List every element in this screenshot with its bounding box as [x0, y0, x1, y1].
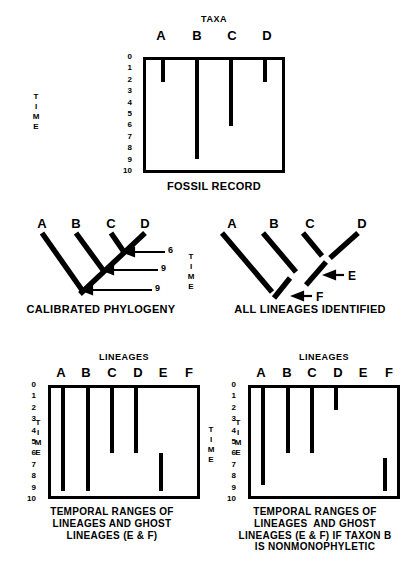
calibrated-phylogeny-arrows — [0, 228, 210, 303]
temporal-ranges-right-chart — [248, 385, 400, 499]
all-ghost-label-e: E — [348, 269, 356, 283]
right-time-letter-i: I — [232, 428, 244, 438]
temporal-ranges-left-caption: TEMPORAL RANGES OF LINEAGES AND GHOST LI… — [22, 506, 202, 541]
fossil-time-ticks: 0 1 2 3 4 5 6 7 8 9 10 — [110, 53, 132, 178]
left-time-letter-m: M — [32, 438, 44, 448]
right-bar-d — [334, 388, 338, 410]
left-column-header-d: D — [125, 365, 151, 380]
left-tick: 10 — [16, 495, 36, 506]
right-column-header-e: E — [350, 365, 376, 380]
calib-time-letter-e: E — [185, 282, 197, 292]
calib-node-age-6: 6 — [168, 245, 173, 255]
fossil-column-header-d: D — [249, 28, 285, 43]
left-bar-a — [61, 388, 65, 491]
right-time-letter-t: T — [232, 418, 244, 428]
fossil-time-letter-t: T — [30, 92, 42, 102]
left-bar-e — [159, 453, 163, 491]
calib-arrow-group — [82, 248, 165, 294]
fossil-tick: 10 — [110, 167, 132, 178]
calib-time-letter-t: T — [185, 252, 197, 262]
right-time-axis-label: T I M E — [232, 418, 244, 458]
calibrated-phylogeny-caption: CALIBRATED PHYLOGENY — [6, 303, 196, 316]
right-column-header-d: D — [325, 365, 351, 380]
left-bar-d — [134, 388, 138, 453]
calib-arrow-head-9b — [82, 286, 92, 294]
right-column-header-c: C — [299, 365, 325, 380]
left-column-header-e: E — [150, 365, 176, 380]
all-arrow-head-e — [325, 271, 335, 279]
fossil-bar-b — [195, 60, 199, 159]
left-bar-b — [86, 388, 90, 491]
right-bar-c — [310, 388, 314, 453]
all-lineages-arrows — [210, 228, 410, 303]
all-lineages-caption: ALL LINEAGES IDENTIFIED — [212, 303, 408, 316]
calib-arrow-head-6 — [124, 248, 134, 256]
right-time-letter-m: M — [232, 438, 244, 448]
calib-arrow-head-9a — [103, 266, 113, 274]
left-time-letter-t: T — [32, 418, 44, 428]
left-time-axis-label: T I M E — [32, 418, 44, 458]
fossil-record-chart — [143, 57, 285, 173]
fossil-bar-a — [161, 60, 165, 82]
calib-time-axis-label: T I M E — [185, 252, 197, 292]
all-ghost-label-f: F — [316, 290, 323, 304]
temporal-ranges-right-caption: TEMPORAL RANGES OF LINEAGES AND GHOST LI… — [222, 506, 408, 553]
fossil-group-header: TAXA — [143, 14, 285, 24]
all-arrow-head-f — [293, 292, 303, 300]
fossil-tick: 8 — [110, 144, 132, 155]
fossil-bar-d — [263, 60, 267, 82]
calib-time-letter-i: I — [185, 262, 197, 272]
right-column-header-b: B — [274, 365, 300, 380]
right-tick: 10 — [216, 495, 236, 506]
left-time-letter-i: I — [32, 428, 44, 438]
left-group-header: LINEAGES — [48, 352, 200, 362]
right-bar-a — [261, 388, 265, 485]
left-column-header-b: B — [73, 365, 99, 380]
fossil-time-letter-m: M — [30, 112, 42, 122]
fossil-column-header-a: A — [143, 28, 179, 43]
right-tick: 8 — [216, 472, 236, 483]
right-bar-b — [286, 388, 290, 453]
fossil-column-header-c: C — [214, 28, 250, 43]
calib-time-letter-m: M — [185, 272, 197, 282]
fossil-time-letter-i: I — [30, 102, 42, 112]
fossil-column-header-b: B — [179, 28, 215, 43]
left-column-header-a: A — [48, 365, 74, 380]
fossil-time-axis-label: T I M E — [30, 92, 42, 132]
left-time-letter-e: E — [32, 448, 44, 458]
left-column-header-c: C — [99, 365, 125, 380]
left-bar-c — [110, 388, 114, 453]
fossil-tick: 3 — [110, 87, 132, 98]
right-column-header-a: A — [248, 365, 274, 380]
fossil-time-letter-e: E — [30, 122, 42, 132]
temporal-ranges-left-chart — [48, 385, 200, 499]
left-tick: 8 — [16, 472, 36, 483]
right-column-header-f: F — [376, 365, 402, 380]
left-column-header-f: F — [176, 365, 202, 380]
right-time-letter-e: E — [232, 448, 244, 458]
right-group-header: LINEAGES — [248, 352, 400, 362]
calib-node-age-9-upper: 9 — [161, 263, 166, 273]
fossil-record-caption: FOSSIL RECORD — [143, 180, 285, 193]
fossil-bar-c — [229, 60, 233, 126]
calib-node-age-9-lower: 9 — [155, 283, 160, 293]
right-bar-f — [383, 458, 387, 490]
